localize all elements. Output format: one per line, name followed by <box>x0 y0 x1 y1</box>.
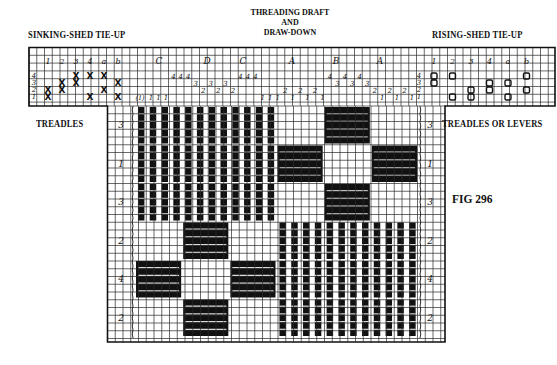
threading-number: 3 <box>194 80 199 88</box>
threading-number: 1 <box>410 94 414 102</box>
threading-number: 4 <box>178 73 183 81</box>
threading-number: 1 <box>149 94 153 102</box>
treadle-block-number-left: 3 <box>118 120 124 130</box>
drawdown-warp-stripe <box>173 107 179 144</box>
threading-number: 1 <box>156 94 160 102</box>
drawdown-warp-stripe <box>162 146 168 183</box>
threading-number: 3 <box>223 80 228 88</box>
threading-number: 1 <box>305 94 309 102</box>
tieup-column-label-rising: 2 <box>449 57 455 66</box>
drawdown-warp-stripe <box>138 146 144 183</box>
drawdown-warp-stripe <box>197 146 203 183</box>
drawdown-warp-stripe <box>268 107 274 144</box>
treadle-block-number-right: 2 <box>426 236 433 246</box>
threading-number: 2 <box>282 87 288 95</box>
threading-number: 2 <box>401 87 407 95</box>
tieup-o-mark <box>505 80 511 86</box>
threading-number: 2 <box>297 87 303 95</box>
threading-number: 1 <box>261 94 265 102</box>
tieup-column-label-rising: 3 <box>468 57 473 66</box>
tieup-column-label-rising: 4 <box>486 57 492 66</box>
threading-number: 2 <box>200 87 206 95</box>
tieup-o-mark <box>450 73 456 79</box>
drawdown-warp-stripe <box>150 146 156 183</box>
drawdown-warp-stripe <box>268 184 274 221</box>
drawdown-warp-stripe <box>209 146 215 183</box>
threading-number: 4 <box>327 73 332 81</box>
drawdown-warp-stripe <box>138 184 144 221</box>
threading-number: 3 <box>365 80 370 88</box>
drawdown-warp-stripe <box>173 184 179 221</box>
treadle-block-number-right: 3 <box>427 197 433 207</box>
drawdown-warp-stripe <box>256 184 262 221</box>
tieup-x-mark: X <box>45 92 52 102</box>
tieup-column-label-sinking: 2 <box>58 57 64 66</box>
treadle-block-number-left: 1 <box>118 159 124 169</box>
tieup-column-label-sinking: 4 <box>86 57 92 66</box>
threading-number: 1 <box>290 94 294 102</box>
weaving-draft-grid: 3311332244224433221111223344aabbXXXXXXXX… <box>0 0 557 365</box>
threading-number: 1 <box>380 94 384 102</box>
threading-block-letter: C <box>156 56 163 66</box>
treadle-block-number-right: 2 <box>426 313 433 323</box>
tieup-column-label-rising: 1 <box>431 57 436 66</box>
drawdown-warp-stripe <box>197 184 203 221</box>
threading-number: 4 <box>342 73 347 81</box>
drawdown-warp-stripe <box>150 107 156 144</box>
threading-number: 2 <box>386 87 392 95</box>
tieup-x-mark: X <box>73 78 80 88</box>
drawdown-warp-stripe <box>150 184 156 221</box>
tieup-column-label-sinking: b <box>115 57 120 66</box>
drawdown-warp-stripe <box>197 107 203 144</box>
draft-outline <box>29 48 555 343</box>
tieup-o-mark <box>487 80 493 86</box>
drawdown-warp-stripe <box>232 146 238 183</box>
drawdown-warp-stripe <box>256 146 262 183</box>
threading-number: 2 <box>371 87 377 95</box>
tieup-o-mark <box>487 87 493 93</box>
tieup-column-label-sinking: 1 <box>45 57 50 66</box>
threading-number: 4 <box>252 73 257 81</box>
threading-block-letter: C <box>240 56 247 66</box>
threading-number: 4 <box>185 73 190 81</box>
drawdown-warp-stripe <box>162 184 168 221</box>
tieup-x-mark: X <box>87 71 94 81</box>
drawdown-warp-stripe <box>162 107 168 144</box>
tieup-x-mark: X <box>115 78 122 88</box>
treadle-block-number-left: 2 <box>117 236 124 246</box>
treadle-block-number-left: 2 <box>117 313 124 323</box>
shaft-number-right: 1 <box>417 93 421 101</box>
tieup-column-label-rising: a <box>506 57 511 66</box>
threading-number: 4 <box>357 73 362 81</box>
drawdown-warp-stripe <box>185 146 191 183</box>
tieup-column-label-rising: b <box>524 57 529 66</box>
drawdown-warp-stripe <box>209 107 215 144</box>
tieup-o-mark <box>450 94 456 100</box>
tieup-column-label-sinking: a <box>102 57 107 66</box>
drawdown-warp-stripe <box>185 107 191 144</box>
tieup-x-mark: X <box>115 92 122 102</box>
tieup-x-mark: X <box>101 71 108 81</box>
drawdown-warp-stripe <box>185 184 191 221</box>
threading-number: 1 <box>395 94 399 102</box>
shaft-number-left: 1 <box>32 93 36 101</box>
threading-number: 2 <box>215 87 221 95</box>
threading-number: 4 <box>237 73 242 81</box>
threading-number: 4 <box>170 73 175 81</box>
treadle-block-number-right: 1 <box>427 159 433 169</box>
threading-number: 1 <box>276 94 280 102</box>
treadle-block-number-right: 3 <box>427 120 433 130</box>
tieup-o-mark <box>524 87 530 93</box>
drawdown-solid-block <box>278 146 323 183</box>
threading-number: 1 <box>320 94 324 102</box>
treadle-block-number-left: 4 <box>117 274 124 284</box>
threading-block-letter: B <box>332 56 340 66</box>
drawdown-warp-stripe <box>173 146 179 183</box>
threading-start-marker: (1) <box>135 94 145 102</box>
threading-number: 3 <box>208 80 213 88</box>
threading-number: 3 <box>335 80 340 88</box>
threading-block-letter: A <box>376 56 384 66</box>
threading-number: 4 <box>245 73 250 81</box>
threading-number: 2 <box>230 87 236 95</box>
tieup-o-mark <box>524 73 530 79</box>
